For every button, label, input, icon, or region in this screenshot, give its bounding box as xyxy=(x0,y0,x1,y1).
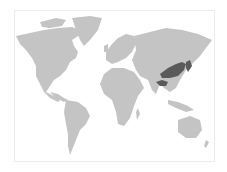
madagascar xyxy=(136,108,140,120)
australia xyxy=(178,116,202,138)
south-america xyxy=(64,100,90,155)
indonesia xyxy=(168,100,194,112)
new-zealand xyxy=(204,140,209,148)
land-masses xyxy=(16,16,212,155)
greenland xyxy=(72,16,102,46)
europe xyxy=(106,34,136,64)
asia xyxy=(132,28,212,94)
world-map xyxy=(0,0,227,172)
arctic-islands xyxy=(40,18,66,28)
north-america xyxy=(16,27,80,102)
uk xyxy=(104,44,108,52)
